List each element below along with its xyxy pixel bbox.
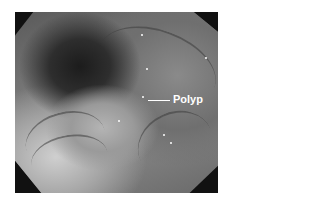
specular-highlight [163, 134, 165, 136]
specular-highlight [146, 68, 148, 70]
polyp-label: Polyp [173, 93, 203, 105]
specular-highlight [170, 142, 172, 144]
specular-highlight [141, 34, 143, 36]
mucosal-fold [87, 12, 218, 123]
specular-highlight [142, 96, 144, 98]
specular-highlight [118, 120, 120, 122]
polyp-pointer-line [148, 100, 170, 101]
mucosal-fold [127, 98, 218, 190]
specular-highlight [205, 57, 207, 59]
